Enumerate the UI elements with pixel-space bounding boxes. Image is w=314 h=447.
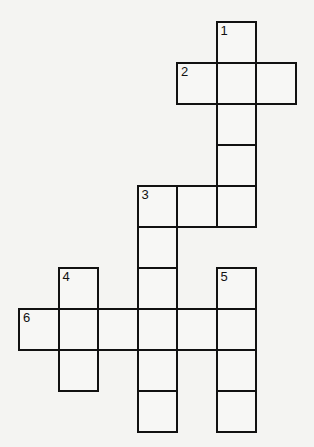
clue-number: 2 [181, 65, 188, 78]
crossword-grid: 123456 [0, 0, 314, 447]
crossword-cell[interactable] [216, 144, 258, 187]
crossword-cell[interactable] [216, 185, 258, 228]
crossword-cell[interactable] [176, 185, 218, 228]
crossword-cell[interactable] [137, 226, 179, 269]
clue-number: 5 [221, 270, 228, 283]
crossword-cell[interactable] [137, 349, 179, 392]
crossword-cell[interactable]: 1 [216, 21, 258, 64]
crossword-cell[interactable]: 3 [137, 185, 179, 228]
crossword-cell[interactable]: 4 [58, 267, 100, 310]
crossword-cell[interactable] [137, 267, 179, 310]
crossword-cell[interactable] [216, 390, 258, 433]
crossword-cell[interactable] [216, 349, 258, 392]
crossword-cell[interactable] [97, 308, 139, 351]
clue-number: 1 [221, 24, 228, 37]
crossword-cell[interactable] [58, 308, 100, 351]
crossword-cell[interactable] [176, 308, 218, 351]
clue-number: 3 [142, 188, 149, 201]
clue-number: 6 [23, 311, 30, 324]
crossword-cell[interactable] [216, 103, 258, 146]
crossword-cell[interactable] [216, 308, 258, 351]
clue-number: 4 [63, 270, 70, 283]
crossword-cell[interactable] [137, 390, 179, 433]
crossword-cell[interactable]: 6 [18, 308, 60, 351]
crossword-cell[interactable] [216, 62, 258, 105]
crossword-cell[interactable] [137, 308, 179, 351]
crossword-cell[interactable] [58, 349, 100, 392]
crossword-cell[interactable]: 5 [216, 267, 258, 310]
crossword-cell[interactable]: 2 [176, 62, 218, 105]
crossword-cell[interactable] [255, 62, 297, 105]
